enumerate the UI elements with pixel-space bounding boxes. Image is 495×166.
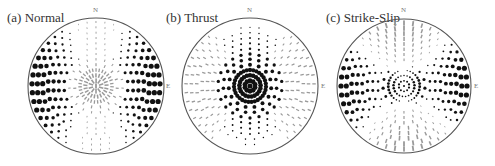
stereonet-plots xyxy=(0,0,495,166)
